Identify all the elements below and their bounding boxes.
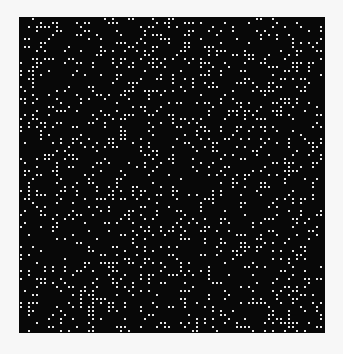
- random-dot-field: [19, 17, 325, 333]
- dot-canvas: [19, 17, 325, 333]
